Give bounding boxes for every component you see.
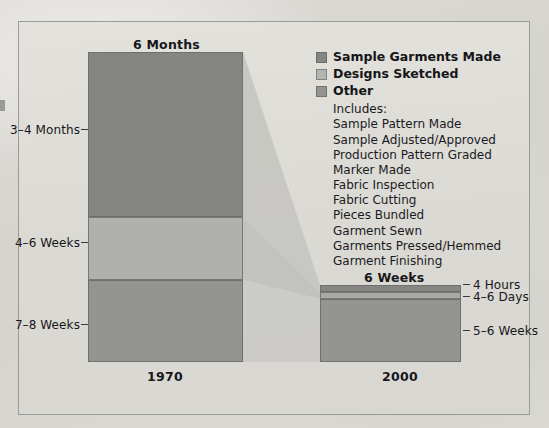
legend-item-designs-sketched: Designs Sketched [316,67,531,82]
includes-item: Marker Made [333,163,531,178]
legend-includes-block: Includes: Sample Pattern Made Sample Adj… [333,102,531,269]
includes-item: Garment Sewn [333,224,531,239]
legend-label-designs-sketched: Designs Sketched [333,67,458,82]
axis-label-2000: 2000 [382,371,418,384]
includes-item: Sample Adjusted/Approved [333,133,531,148]
includes-heading: Includes: [333,102,531,117]
bar-2000-label-designs-sketched: 4–6 Days [473,291,529,303]
bar-1970-segment-designs-sketched [88,217,243,280]
bar-1970-label-designs-sketched: 4–6 Weeks [10,237,80,249]
legend-swatch-icon-designs-sketched [316,69,327,80]
tick-2000-designs-sketched [463,296,470,297]
includes-item: Sample Pattern Made [333,117,531,132]
legend-label-other: Other [333,84,373,99]
legend-swatch-icon-sample-garments-made [316,52,327,63]
tick-1970-sample-garments [81,129,88,130]
bar-2000-segment-sample-garments [320,285,461,292]
axis-label-1970: 1970 [147,371,183,384]
includes-item: Fabric Cutting [333,193,531,208]
bar-2000-segment-other [320,299,461,362]
includes-item: Garment Finishing [333,254,531,269]
bar-1970-segment-sample-garments [88,52,243,217]
legend-swatch-icon-other [316,86,327,97]
bar-1970-label-sample-garments: 3–4 Months [10,124,80,136]
legend-item-sample-garments-made: Sample Garments Made [316,50,531,65]
legend-item-other: Other [316,84,531,99]
tick-2000-other [463,330,470,331]
includes-item: Fabric Inspection [333,178,531,193]
chart-figure: 6 Months 1970 3–4 Months 4–6 Weeks 7–8 W… [0,0,549,428]
chart-legend: Sample Garments Made Designs Sketched Ot… [316,50,531,269]
bar-2000-label-other: 5–6 Weeks [473,325,538,337]
bar-2000-total-label: 6 Weeks [364,272,425,285]
bar-1970-segment-other [88,280,243,362]
bar-2000-segment-designs-sketched [320,292,461,299]
includes-item: Production Pattern Graded [333,148,531,163]
tick-2000-sample-garments [463,284,470,285]
tick-1970-designs-sketched [81,242,88,243]
bar-1970-label-other: 7–8 Weeks [10,319,80,331]
includes-item: Pieces Bundled [333,208,531,223]
legend-label-sample-garments-made: Sample Garments Made [333,50,501,65]
tick-1970-other [81,324,88,325]
includes-item: Garments Pressed/Hemmed [333,239,531,254]
bar-1970-total-label: 6 Months [133,39,200,52]
